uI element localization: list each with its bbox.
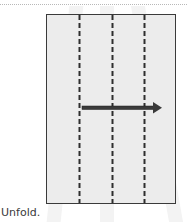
step-caption: Unfold. xyxy=(1,206,40,219)
unfold-arrow-icon xyxy=(82,102,162,114)
fold-diagram xyxy=(0,0,187,222)
